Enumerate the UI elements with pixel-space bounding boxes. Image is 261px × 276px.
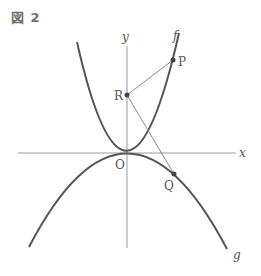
point-r [125, 93, 130, 98]
point-p-label: P [178, 55, 186, 69]
point-r-label: R [114, 89, 124, 103]
curve-f [77, 33, 179, 151]
point-q [172, 172, 177, 177]
point-p [171, 58, 176, 63]
curve-g [29, 153, 227, 249]
curve-g-label: g [233, 248, 241, 262]
segment-rp [127, 60, 173, 95]
origin-label: O [115, 158, 125, 172]
y-axis-label: y [121, 30, 129, 44]
segment-rq [127, 95, 174, 174]
x-axis-label: x [239, 146, 246, 160]
parabola-diagram: y x O f g P R Q [0, 0, 261, 276]
point-q-label: Q [164, 179, 174, 193]
